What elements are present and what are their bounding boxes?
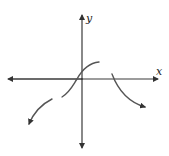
- left-branch-curve: [29, 99, 52, 124]
- graph-canvas: y x: [0, 0, 169, 156]
- y-axis-label: y: [85, 12, 93, 25]
- x-axis-label: x: [156, 65, 163, 78]
